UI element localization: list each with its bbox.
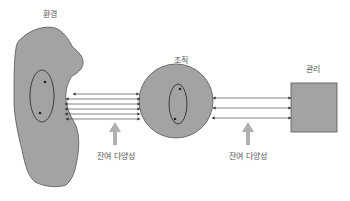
management-shape (291, 83, 337, 132)
up-arrow-icon (109, 122, 121, 145)
up-arrow-icon (242, 122, 254, 145)
residual-variety-left-label: 잔여 다양성 (97, 153, 135, 161)
environment-organization-connectors (66, 94, 139, 119)
organization-label: 조직 (174, 57, 188, 65)
management-label: 관리 (306, 66, 320, 74)
organization-management-connectors (213, 98, 290, 118)
residual-variety-right-label: 잔여 다양성 (229, 153, 267, 161)
environment-label: 환경 (43, 11, 57, 19)
environment-shape (14, 27, 83, 187)
organization-shape (139, 64, 213, 138)
variety-diagram (0, 0, 350, 201)
